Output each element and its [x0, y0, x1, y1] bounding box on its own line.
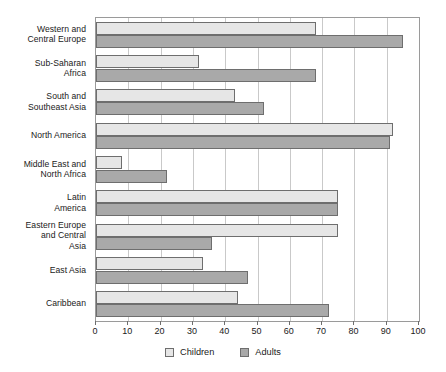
category-label-line: America: [0, 202, 86, 212]
x-tick-label-10: 10: [122, 326, 132, 336]
x-tick-mark-10: [127, 321, 128, 325]
bar-children-0: [96, 22, 316, 35]
category-axis-labels: Western andCentral EuropeSub-SaharanAfri…: [0, 17, 90, 320]
bar-adults-2: [96, 102, 264, 115]
category-label-line: Western and: [0, 23, 86, 33]
x-tick-label-80: 80: [348, 326, 358, 336]
bar-children-7: [96, 257, 203, 270]
category-label-2: South andSoutheast Asia: [0, 91, 86, 112]
bar-children-4: [96, 156, 122, 169]
category-label-line: Africa: [0, 68, 86, 78]
category-label-line: South and: [0, 91, 86, 101]
legend-item-children[interactable]: Children: [165, 347, 214, 357]
x-tick-label-100: 100: [410, 326, 425, 336]
bar-adults-1: [96, 69, 316, 82]
bar-adults-8: [96, 304, 329, 317]
category-label-line: Central Europe: [0, 34, 86, 44]
x-tick-mark-30: [192, 321, 193, 325]
x-tick-mark-40: [224, 321, 225, 325]
category-label-line: North Africa: [0, 169, 86, 179]
x-tick-mark-100: [418, 321, 419, 325]
category-label-8: Caribbean: [0, 298, 86, 308]
x-tick-label-30: 30: [187, 326, 197, 336]
bar-children-6: [96, 224, 338, 237]
bar-adults-0: [96, 35, 403, 48]
category-label-3: North America: [0, 130, 86, 140]
bar-children-8: [96, 291, 238, 304]
category-label-4: Middle East andNorth Africa: [0, 158, 86, 179]
x-tick-label-60: 60: [284, 326, 294, 336]
category-label-line: Middle East and: [0, 158, 86, 168]
bar-adults-5: [96, 203, 338, 216]
x-tick-label-50: 50: [251, 326, 261, 336]
bars-layer: [96, 18, 419, 321]
legend-item-adults[interactable]: Adults: [240, 347, 281, 357]
category-label-line: Eastern Europe: [0, 220, 86, 230]
legend-swatch-icon-adults: [240, 348, 249, 357]
x-tick-label-70: 70: [316, 326, 326, 336]
bar-adults-7: [96, 271, 248, 284]
legend-label: Children: [180, 347, 214, 357]
bar-children-3: [96, 123, 393, 136]
x-tick-mark-50: [257, 321, 258, 325]
category-label-6: Eastern Europeand CentralAsia: [0, 220, 86, 251]
x-tick-mark-70: [321, 321, 322, 325]
category-label-line: East Asia: [0, 264, 86, 274]
bar-adults-6: [96, 237, 212, 250]
category-label-line: Asia: [0, 241, 86, 251]
category-label-line: Sub-Saharan: [0, 57, 86, 67]
plot-area: [95, 17, 420, 322]
legend-swatch-icon-children: [165, 348, 174, 357]
bar-adults-3: [96, 136, 390, 149]
legend-label: Adults: [255, 347, 281, 357]
x-tick-label-40: 40: [219, 326, 229, 336]
category-label-line: North America: [0, 130, 86, 140]
bar-chart: Western andCentral EuropeSub-SaharanAfri…: [0, 0, 446, 372]
bar-children-2: [96, 89, 235, 102]
x-tick-mark-80: [353, 321, 354, 325]
category-label-0: Western andCentral Europe: [0, 23, 86, 44]
bar-children-1: [96, 55, 199, 68]
x-axis: 0102030405060708090100: [95, 321, 419, 341]
category-label-line: Southeast Asia: [0, 101, 86, 111]
category-label-line: Latin: [0, 192, 86, 202]
x-tick-label-20: 20: [155, 326, 165, 336]
bar-children-5: [96, 190, 338, 203]
category-label-7: East Asia: [0, 264, 86, 274]
x-tick-label-90: 90: [381, 326, 391, 336]
x-tick-mark-0: [95, 321, 96, 325]
chart-legend: ChildrenAdults: [0, 347, 446, 357]
category-label-5: LatinAmerica: [0, 192, 86, 213]
category-label-line: and Central: [0, 231, 86, 241]
x-tick-label-0: 0: [92, 326, 97, 336]
x-tick-mark-20: [160, 321, 161, 325]
x-tick-mark-90: [386, 321, 387, 325]
bar-adults-4: [96, 170, 167, 183]
category-label-1: Sub-SaharanAfrica: [0, 57, 86, 78]
category-label-line: Caribbean: [0, 298, 86, 308]
x-tick-mark-60: [289, 321, 290, 325]
